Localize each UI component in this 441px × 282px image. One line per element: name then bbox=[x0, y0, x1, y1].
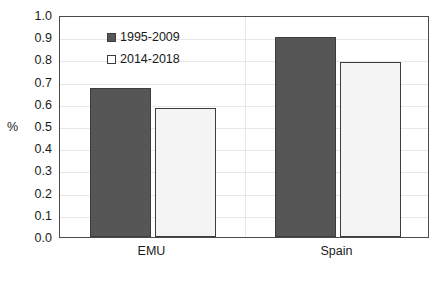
legend-item: 1995-2009 bbox=[107, 27, 227, 47]
bar bbox=[340, 62, 401, 237]
y-axis-tick-label: 0.5 bbox=[35, 121, 52, 134]
chart-title bbox=[0, 0, 441, 3]
chart-legend: 1995-20092014-2018 bbox=[107, 27, 227, 71]
y-axis-title: % bbox=[7, 121, 18, 134]
y-axis-tick-label: 1.0 bbox=[35, 10, 52, 23]
legend-swatch-filled-icon bbox=[107, 33, 116, 42]
y-axis-tick-label: 0.6 bbox=[35, 99, 52, 112]
legend-label: 1995-2009 bbox=[120, 31, 180, 44]
legend-label: 2014-2018 bbox=[120, 53, 180, 66]
y-axis: 0.00.10.20.30.40.50.60.70.80.91.0% bbox=[0, 16, 55, 238]
bar bbox=[275, 37, 336, 237]
y-axis-tick-label: 0.2 bbox=[35, 187, 52, 200]
y-axis-tick-label: 0.8 bbox=[35, 54, 52, 67]
y-axis-tick-label: 0.9 bbox=[35, 32, 52, 45]
x-axis: EMUSpain bbox=[59, 245, 429, 267]
category-separator bbox=[245, 17, 246, 237]
x-axis-category-label: EMU bbox=[138, 245, 166, 258]
bar bbox=[155, 108, 216, 237]
legend-swatch-open-icon bbox=[107, 55, 116, 64]
y-axis-tick-label: 0.4 bbox=[35, 143, 52, 156]
y-axis-tick-label: 0.1 bbox=[35, 210, 52, 223]
y-axis-tick-label: 0.3 bbox=[35, 165, 52, 178]
legend-item: 2014-2018 bbox=[107, 49, 227, 69]
y-axis-tick-label: 0.0 bbox=[35, 232, 52, 245]
bar-chart: 0.00.10.20.30.40.50.60.70.80.91.0% EMUSp… bbox=[0, 0, 441, 282]
x-axis-category-label: Spain bbox=[321, 245, 353, 258]
bar bbox=[90, 88, 151, 237]
y-axis-tick-label: 0.7 bbox=[35, 76, 52, 89]
